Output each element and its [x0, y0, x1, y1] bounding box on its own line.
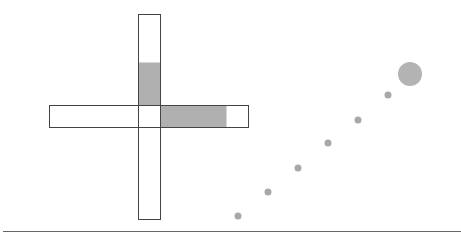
cross-shape	[50, 15, 249, 220]
small-dot	[355, 117, 362, 124]
small-dot	[295, 165, 302, 172]
small-dot	[265, 189, 272, 196]
dot-trail	[235, 92, 392, 220]
diagram-svg	[0, 0, 461, 240]
small-dot	[235, 213, 242, 220]
large-dot	[398, 62, 422, 86]
vertical-bar-fill	[139, 63, 161, 106]
small-dot	[325, 140, 332, 147]
horizontal-bar-fill	[161, 106, 227, 128]
diagram-canvas	[0, 0, 461, 240]
small-dot	[385, 92, 392, 99]
